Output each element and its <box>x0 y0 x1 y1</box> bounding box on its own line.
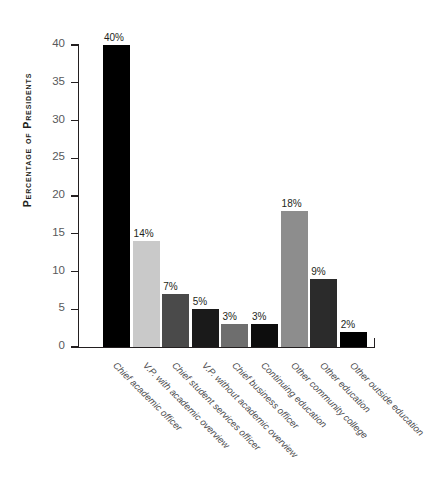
x-axis-category-label: Other education <box>318 360 373 415</box>
bar <box>221 324 248 347</box>
plot-area: 40%14%7%5%3%3%18%9%2% <box>78 45 375 347</box>
bar-value-label: 3% <box>222 311 236 322</box>
y-axis-tick-label: 15 <box>25 226 65 238</box>
y-axis-tick <box>71 346 78 347</box>
y-axis-tick <box>71 309 78 310</box>
bar-value-label: 5% <box>193 296 207 307</box>
bar <box>340 332 367 347</box>
y-axis-tick <box>71 195 78 196</box>
bar <box>162 294 189 347</box>
y-axis-tick <box>71 82 78 83</box>
bar <box>310 279 337 347</box>
y-axis-tick <box>71 120 78 121</box>
bar-value-label: 14% <box>134 228 154 239</box>
y-axis-tick <box>71 158 78 159</box>
bar-value-label: 40% <box>104 32 124 43</box>
y-axis-tick-label: 20 <box>25 188 65 200</box>
y-axis-tick-label: 40 <box>25 37 65 49</box>
y-axis-tick-label: 0 <box>25 339 65 351</box>
bar-value-label: 9% <box>311 266 325 277</box>
bar <box>192 309 219 347</box>
y-axis-tick-label: 5 <box>25 301 65 313</box>
y-axis-tick-label: 25 <box>25 150 65 162</box>
y-axis-tick <box>71 233 78 234</box>
bar-value-label: 2% <box>341 319 355 330</box>
y-axis-tick <box>71 271 78 272</box>
bar-value-label: 3% <box>252 311 266 322</box>
bar <box>281 211 308 347</box>
y-axis-tick-label: 30 <box>25 113 65 125</box>
y-axis-tick-label: 35 <box>25 75 65 87</box>
x-axis-category-labels: Chief academic officerV.P. with academic… <box>0 352 412 482</box>
y-axis-tick <box>71 44 78 45</box>
bar-value-label: 18% <box>282 198 302 209</box>
bar <box>103 45 130 347</box>
bar <box>251 324 278 347</box>
bar <box>133 241 160 347</box>
x-axis-line <box>78 347 375 348</box>
bar-value-label: 7% <box>163 281 177 292</box>
y-axis-tick-label: 10 <box>25 264 65 276</box>
